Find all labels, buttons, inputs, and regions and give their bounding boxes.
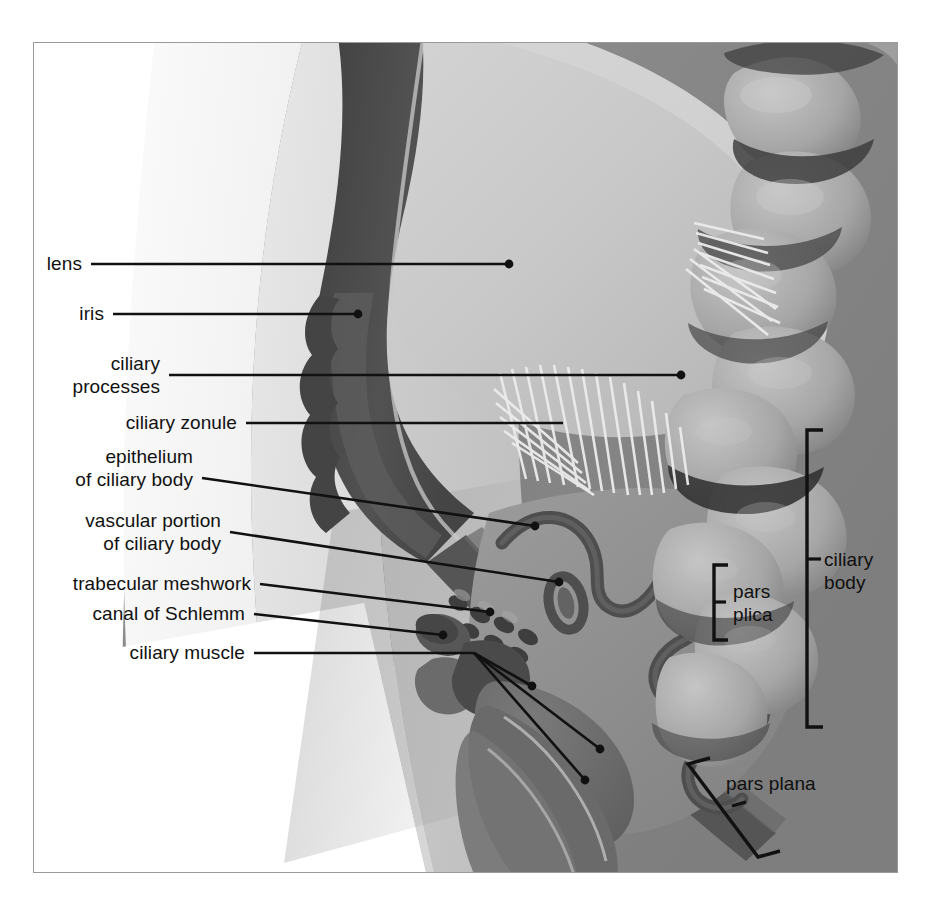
label-ciliary-zonule: ciliary zonule — [0, 411, 237, 434]
label-lens: lens — [0, 252, 82, 275]
label-iris: iris — [0, 302, 104, 325]
label-trabecular-meshwork: trabecular meshwork — [0, 572, 251, 595]
label-ciliary-processes: ciliary processes — [0, 352, 160, 398]
label-pars-plana: pars plana — [726, 772, 816, 795]
label-ciliary-muscle: ciliary muscle — [0, 641, 245, 664]
label-canal-of-schlemm: canal of Schlemm — [0, 602, 245, 625]
label-vascular-portion-of-ciliary-body: vascular portion of ciliary body — [0, 509, 221, 555]
label-pars-plica: pars plica — [733, 580, 773, 626]
figure-stage: lensirisciliary processesciliary zonulee… — [0, 0, 928, 912]
label-epithelium-of-ciliary-body: epithelium of ciliary body — [0, 445, 193, 491]
label-ciliary-body: ciliary body — [824, 548, 873, 594]
